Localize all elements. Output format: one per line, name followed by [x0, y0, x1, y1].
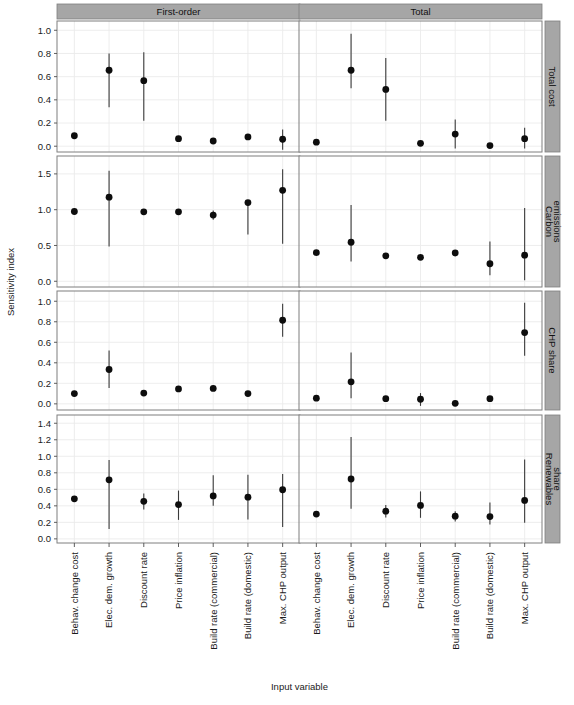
data-point — [140, 77, 147, 84]
data-point — [245, 199, 252, 206]
data-point — [140, 390, 147, 397]
y-axis-tick-label: 0.6 — [38, 484, 51, 495]
data-point — [382, 252, 389, 259]
data-point — [313, 511, 320, 518]
panel-chp-share-first-order: 0.00.20.40.60.81.0 — [38, 291, 300, 410]
x-axis-tick-label: Price inflation — [415, 552, 426, 609]
data-point — [521, 329, 528, 336]
y-axis-tick-label: 1.0 — [38, 451, 51, 462]
panel-carbon-emissions-total — [299, 156, 542, 287]
y-axis-tick-label: 0.4 — [38, 500, 51, 511]
data-point — [521, 252, 528, 259]
data-point — [245, 494, 252, 501]
y-axis-tick-label: 0.0 — [38, 276, 51, 287]
data-point — [106, 366, 113, 373]
data-point — [348, 476, 355, 483]
data-point — [71, 495, 78, 502]
data-point — [279, 317, 286, 324]
data-point — [487, 395, 494, 402]
row-strip-chp-share: CHP share — [545, 291, 560, 410]
data-point — [106, 194, 113, 201]
row-strip-label: emissions — [552, 200, 563, 242]
x-axis-tick-label: Behav. change cost — [69, 552, 80, 635]
data-point — [417, 254, 424, 261]
y-axis-tick-label: 0.0 — [38, 141, 51, 152]
y-axis-tick-label: 1.4 — [38, 418, 51, 429]
data-point — [417, 396, 424, 403]
data-point — [279, 187, 286, 194]
panel-carbon-emissions-first-order: 0.00.51.01.5 — [38, 156, 300, 287]
x-axis-tick-label: Discount rate — [138, 552, 149, 608]
data-point — [487, 142, 494, 149]
x-axis-tick-label: Build rate (commercial) — [450, 552, 461, 650]
data-point — [521, 497, 528, 504]
y-axis-tick-label: 1.0 — [38, 204, 51, 215]
row-strip-carbon-emissions: Carbonemissions — [544, 156, 563, 287]
x-axis-tick-label: Behav. change cost — [311, 552, 322, 635]
x-axis-tick-label: Max. CHP output — [277, 552, 288, 625]
data-point — [348, 67, 355, 74]
y-axis-tick-label: 1.0 — [38, 25, 51, 36]
y-axis-tick-label: 1.5 — [38, 168, 51, 179]
data-point — [452, 131, 459, 138]
y-axis-tick-label: 0.2 — [38, 378, 51, 389]
data-point — [175, 501, 182, 508]
column-strip-1: First-order — [57, 4, 300, 19]
data-point — [175, 135, 182, 142]
row-strip-label: share — [552, 467, 563, 491]
y-axis-tick-label: 0.8 — [38, 316, 51, 327]
data-point — [71, 390, 78, 397]
y-axis-tick-label: 0.8 — [38, 467, 51, 478]
data-point — [452, 400, 459, 407]
row-strip-label: CHP share — [547, 327, 558, 373]
panel-total-cost-first-order: 0.00.20.40.60.81.0 — [38, 21, 300, 152]
data-point — [175, 386, 182, 393]
data-point — [279, 136, 286, 143]
x-axis-tick-label: Build rate (domestic) — [484, 552, 495, 639]
y-axis-tick-label: 0.2 — [38, 117, 51, 128]
data-point — [313, 249, 320, 256]
y-axis-tick-label: 0.6 — [38, 71, 51, 82]
y-axis-title: Sensitivity index — [5, 248, 16, 316]
y-axis-tick-label: 0.0 — [38, 398, 51, 409]
x-axis-tick-label: Elec. dem. growth — [345, 552, 356, 628]
data-point — [210, 385, 217, 392]
panel-chp-share-total — [299, 291, 542, 410]
x-axis-title: Input variable — [271, 681, 328, 692]
data-point — [210, 493, 217, 500]
y-axis-tick-label: 0.5 — [38, 240, 51, 251]
y-axis-tick-label: 1.2 — [38, 434, 51, 445]
facet-plot-svg: First-orderTotal0.00.20.40.60.81.00.00.5… — [0, 0, 574, 705]
row-strip-label: Total cost — [547, 66, 558, 106]
panel-renewables-share-first-order: 0.00.20.40.60.81.01.21.4Behav. change co… — [38, 415, 300, 650]
data-point — [487, 260, 494, 267]
x-axis-tick-label: Discount rate — [380, 552, 391, 608]
data-point — [106, 67, 113, 74]
y-axis-tick-label: 0.0 — [38, 533, 51, 544]
data-point — [71, 132, 78, 139]
data-point — [210, 138, 217, 145]
y-axis-tick-label: 0.4 — [38, 357, 51, 368]
data-point — [348, 239, 355, 246]
x-axis-tick-label: Elec. dem. growth — [103, 552, 114, 628]
data-point — [313, 139, 320, 146]
y-axis-tick-label: 1.0 — [38, 296, 51, 307]
data-point — [245, 390, 252, 397]
row-strip-renewables-share: Renewablesshare — [544, 415, 563, 543]
y-axis-tick-label: 0.4 — [38, 94, 51, 105]
column-strip-2: Total — [299, 4, 542, 19]
data-point — [175, 208, 182, 215]
data-point — [140, 208, 147, 215]
data-point — [210, 212, 217, 219]
y-axis-tick-label: 0.2 — [38, 517, 51, 528]
data-point — [382, 508, 389, 515]
column-strip-label: First-order — [157, 6, 201, 17]
data-point — [313, 395, 320, 402]
column-strip-label: Total — [410, 6, 430, 17]
data-point — [452, 513, 459, 520]
data-point — [140, 498, 147, 505]
y-axis-tick-label: 0.6 — [38, 337, 51, 348]
data-point — [487, 513, 494, 520]
panel-total-cost-total — [299, 21, 542, 152]
data-point — [106, 476, 113, 483]
